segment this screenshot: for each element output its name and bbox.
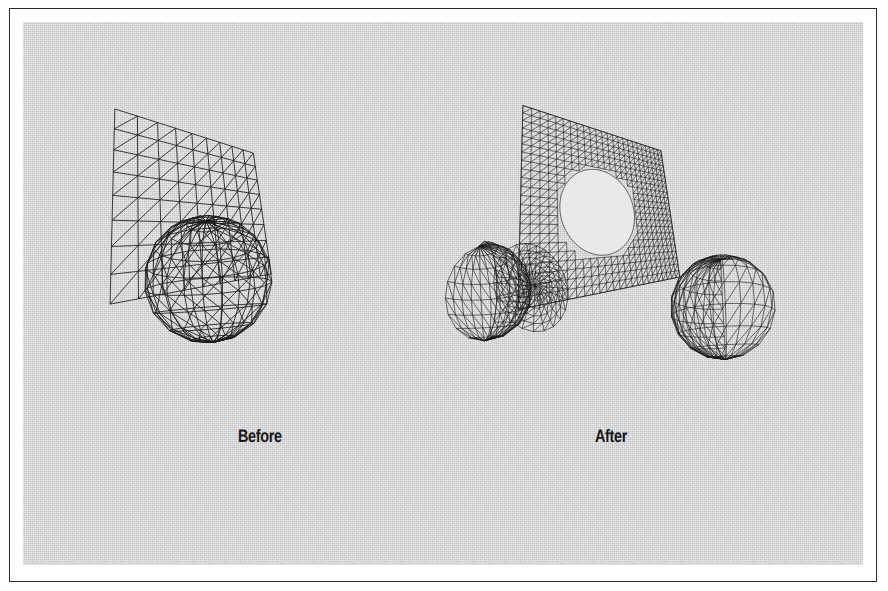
wireframe-scene — [23, 22, 863, 565]
after-plane-with-hole — [518, 105, 680, 309]
before-wireframe-sphere — [145, 215, 272, 342]
after-sphere-body-piece — [672, 255, 776, 360]
figure-root: Before After — [0, 0, 888, 591]
illustration-plate: Before After — [23, 22, 863, 565]
before-mesh-plane — [110, 109, 271, 304]
caption-after: After — [595, 426, 627, 447]
plane-hole-opening — [560, 169, 635, 255]
caption-before: Before — [238, 426, 282, 447]
